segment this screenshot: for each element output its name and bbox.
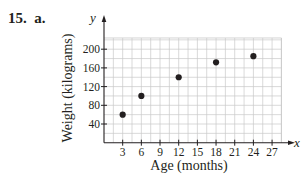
x-tick-label: 12 <box>173 146 185 158</box>
data-point <box>250 53 256 59</box>
x-tick-label: 24 <box>248 146 260 158</box>
x-axis-title: Age (months) <box>150 158 228 174</box>
x-tick-label: 6 <box>138 146 144 158</box>
x-tick-label: 18 <box>210 146 222 158</box>
x-tick-label: 27 <box>266 146 278 158</box>
y-axis-title: Weight (kilograms) <box>60 33 76 142</box>
data-point <box>138 93 144 99</box>
data-point <box>213 59 219 65</box>
x-tick-label: 9 <box>157 146 163 158</box>
y-tick-label: 120 <box>83 81 101 93</box>
data-point <box>120 112 126 118</box>
scatter-chart: 3691215182124274080120160200 x y Age (mo… <box>0 0 306 181</box>
y-tick-label: 200 <box>83 43 101 55</box>
x-tick-label: 15 <box>192 146 204 158</box>
y-axis-arrow-icon <box>102 15 107 22</box>
y-tick-label: 40 <box>89 118 101 130</box>
x-axis-variable: x <box>293 135 300 150</box>
y-tick-label: 80 <box>89 99 101 111</box>
x-tick-label: 21 <box>229 146 241 158</box>
axes <box>102 15 295 145</box>
x-tick-label: 3 <box>120 146 126 158</box>
data-point <box>176 74 182 80</box>
axis-ticks: 3691215182124274080120160200 <box>83 43 278 158</box>
y-tick-label: 160 <box>83 62 101 74</box>
y-axis-variable: y <box>88 10 96 25</box>
